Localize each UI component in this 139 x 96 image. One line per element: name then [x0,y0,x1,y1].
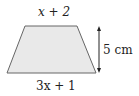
height-arrow-icon [97,26,101,73]
bottom-side-expression: 3x + 1 [36,79,76,93]
trapezoid-diagram: x + 2 3x + 1 5 cm [0,0,139,96]
trapezoid-shape [7,26,96,73]
top-side-label: x + 2 [38,6,70,18]
top-side-expression: x + 2 [38,5,70,19]
bottom-side-label: 3x + 1 [36,80,76,92]
height-label: 5 cm [103,44,133,56]
